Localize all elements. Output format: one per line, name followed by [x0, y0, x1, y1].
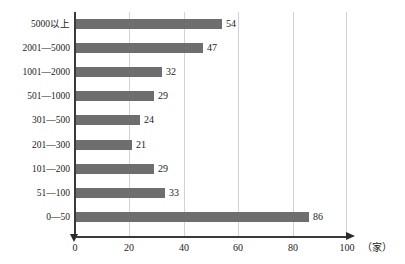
bar-value-label: 54 — [226, 15, 236, 32]
bar-row: 24 — [75, 108, 347, 132]
category-label: 2001—5000 — [2, 41, 70, 55]
bar-value-label: 24 — [144, 111, 154, 128]
x-tick-label: 0 — [62, 241, 88, 255]
bar-row: 47 — [75, 36, 347, 60]
bar-value-label: 47 — [207, 39, 217, 56]
bar-value-label: 29 — [158, 87, 168, 104]
bar-chart: 54 47 32 29 24 21 29 33 — [0, 0, 405, 264]
category-label: 501—1000 — [2, 89, 70, 103]
category-axis: 5000以上 2001—5000 1001—2000 501—1000 301—… — [0, 12, 70, 237]
bar — [75, 164, 154, 174]
bar-row: 32 — [75, 60, 347, 84]
x-axis-line — [75, 236, 347, 238]
bar-row: 29 — [75, 84, 347, 108]
bar — [75, 140, 132, 150]
category-label: 51—100 — [2, 186, 70, 200]
bar-row: 21 — [75, 133, 347, 157]
x-axis-arrow-icon — [346, 232, 355, 240]
bar-value-label: 32 — [166, 63, 176, 80]
plot-area: 54 47 32 29 24 21 29 33 — [75, 12, 347, 237]
bar-row: 54 — [75, 12, 347, 36]
category-label: 1001—2000 — [2, 65, 70, 79]
x-tick-label: 20 — [116, 241, 142, 255]
x-tick-label: 100 — [334, 241, 360, 255]
bar-row: 33 — [75, 181, 347, 205]
x-tick-label: 80 — [280, 241, 306, 255]
bar — [75, 43, 203, 53]
bar — [75, 188, 165, 198]
bar — [75, 67, 162, 77]
category-label: 0—50 — [2, 210, 70, 224]
x-tick-label: 40 — [171, 241, 197, 255]
bar-value-label: 86 — [313, 208, 323, 225]
bar-value-label: 29 — [158, 160, 168, 177]
bar-row: 86 — [75, 205, 347, 229]
x-axis-unit-label: （家） — [362, 240, 392, 255]
category-label: 5000以上 — [2, 17, 70, 31]
bar — [75, 212, 309, 222]
bar — [75, 91, 154, 101]
category-label: 201—300 — [2, 138, 70, 152]
category-label: 301—500 — [2, 113, 70, 127]
bar — [75, 115, 140, 125]
category-label: 101—200 — [2, 162, 70, 176]
y-axis-line — [74, 12, 76, 237]
bar-value-label: 21 — [136, 136, 146, 153]
bar — [75, 19, 222, 29]
bar-row: 29 — [75, 157, 347, 181]
bar-value-label: 33 — [169, 184, 179, 201]
x-tick-label: 60 — [225, 241, 251, 255]
